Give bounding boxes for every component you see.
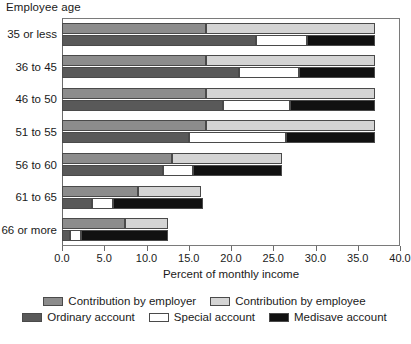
legend-swatch-employee — [210, 297, 230, 306]
y-axis-title: Employee age — [6, 1, 81, 13]
plot-area: 35 or less36 to 4546 to 5051 to 5556 to … — [62, 18, 400, 246]
x-axis-tick-label: 40.0 — [389, 252, 410, 264]
x-axis-tick-label: 5.0 — [97, 252, 112, 264]
x-axis-tick-label: 15.0 — [178, 252, 199, 264]
bar-segment — [125, 218, 167, 229]
bar-segment — [206, 88, 375, 99]
bar-segment — [62, 67, 239, 78]
bar-segment — [189, 132, 286, 143]
legend-swatch-medisave — [269, 313, 289, 322]
bar-segment — [193, 165, 282, 176]
legend-item-label: Contribution by employee — [235, 295, 365, 307]
legend-item[interactable]: Medisave account — [269, 311, 387, 323]
x-axis-tick — [358, 246, 359, 251]
chart-category-row: 35 or less — [62, 18, 400, 51]
bar-segment — [206, 55, 375, 66]
legend-row: Ordinary accountSpecial accountMedisave … — [0, 311, 409, 323]
x-axis-tick — [400, 246, 401, 251]
bar-segment — [62, 23, 206, 34]
chart-category-row: 51 to 55 — [62, 116, 400, 149]
x-axis-tick-label: 35.0 — [347, 252, 368, 264]
x-axis-title: Percent of monthly income — [62, 268, 400, 280]
legend-item[interactable]: Contribution by employee — [210, 295, 365, 307]
legend-item[interactable]: Contribution by employer — [43, 295, 196, 307]
legend-item-label: Ordinary account — [47, 311, 135, 323]
x-axis-tick — [104, 246, 105, 251]
bar-segment — [256, 35, 307, 46]
bar-segment — [206, 120, 375, 131]
bar-segment — [113, 198, 203, 209]
x-axis-tick-label: 25.0 — [263, 252, 284, 264]
chart-category-row: 66 or more — [62, 213, 400, 246]
x-axis-tick — [147, 246, 148, 251]
y-axis-category-label: 56 to 60 — [15, 159, 57, 171]
chart-legend: Contribution by employerContribution by … — [0, 295, 409, 327]
y-axis-category-label: 51 to 55 — [15, 126, 57, 138]
x-axis-tick-label: 30.0 — [305, 252, 326, 264]
bar-segment — [62, 165, 163, 176]
bar-segment — [307, 35, 375, 46]
bar-segment — [92, 198, 113, 209]
bar-segment — [223, 100, 291, 111]
x-axis-tick — [62, 246, 63, 251]
legend-item-label: Contribution by employer — [68, 295, 196, 307]
bar-segment — [62, 132, 189, 143]
x-axis-tick — [189, 246, 190, 251]
chart-category-row: 46 to 50 — [62, 83, 400, 116]
y-axis-category-label: 36 to 45 — [15, 61, 57, 73]
bar-segment — [172, 153, 282, 164]
bar-segment — [62, 100, 223, 111]
x-axis-tick-label: 0.0 — [54, 252, 69, 264]
x-axis: 0.05.010.015.020.025.030.035.040.0 — [62, 246, 400, 252]
legend-swatch-special — [149, 313, 169, 322]
bar-segment — [62, 230, 70, 241]
x-axis-tick — [316, 246, 317, 251]
legend-swatch-ordinary — [22, 313, 42, 322]
x-axis-tick-label: 20.0 — [220, 252, 241, 264]
legend-item-label: Special account — [174, 311, 255, 323]
y-axis-category-label: 46 to 50 — [15, 93, 57, 105]
legend-swatch-employer — [43, 297, 63, 306]
bar-segment — [62, 186, 138, 197]
bar-segment — [290, 100, 375, 111]
bar-segment — [286, 132, 375, 143]
y-axis-category-label: 35 or less — [7, 28, 57, 40]
x-axis-tick — [273, 246, 274, 251]
legend-item[interactable]: Special account — [149, 311, 255, 323]
x-axis-tick-label: 10.0 — [136, 252, 157, 264]
chart-category-row: 56 to 60 — [62, 148, 400, 181]
bar-segment — [62, 55, 206, 66]
y-axis-category-label: 61 to 65 — [15, 191, 57, 203]
bar-segment — [239, 67, 298, 78]
bar-segment — [62, 35, 256, 46]
bar-segment — [299, 67, 375, 78]
bar-segment — [138, 186, 201, 197]
bar-segment — [81, 230, 168, 241]
bar-segment — [62, 218, 125, 229]
bar-segment — [62, 88, 206, 99]
bar-segment — [62, 120, 206, 131]
chart-category-row: 36 to 45 — [62, 51, 400, 84]
bar-segment — [206, 23, 375, 34]
bar-segment — [70, 230, 80, 241]
bar-segment — [62, 198, 92, 209]
x-axis-tick — [231, 246, 232, 251]
y-axis-category-label: 66 or more — [1, 224, 57, 236]
legend-item[interactable]: Ordinary account — [22, 311, 135, 323]
chart-category-row: 61 to 65 — [62, 181, 400, 214]
legend-item-label: Medisave account — [294, 311, 387, 323]
bar-segment — [62, 153, 172, 164]
bar-segment — [163, 165, 193, 176]
legend-row: Contribution by employerContribution by … — [0, 295, 409, 307]
